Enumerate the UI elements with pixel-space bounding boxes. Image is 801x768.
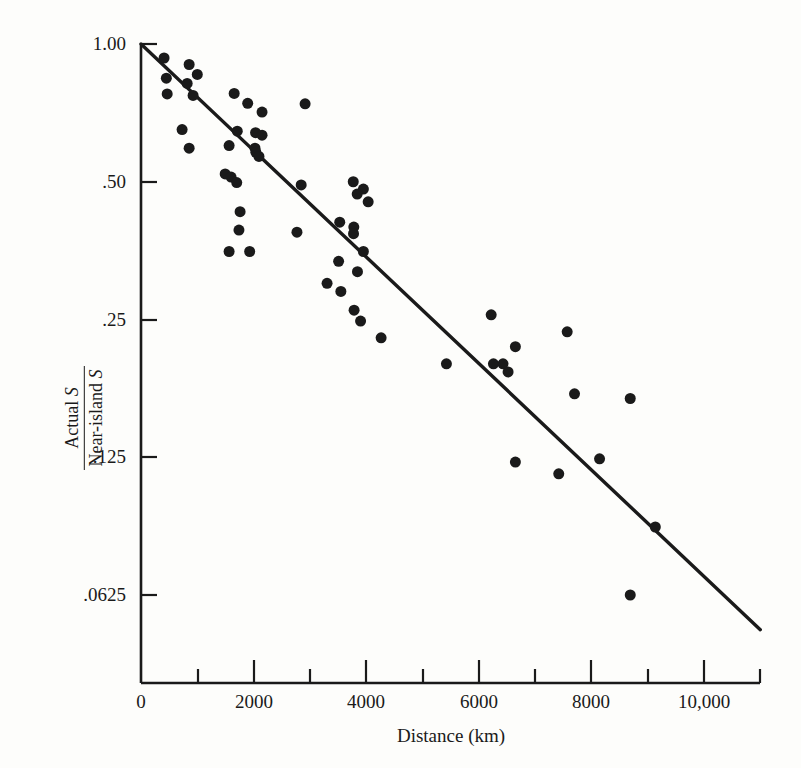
- data-point: [177, 124, 188, 135]
- x-tick-label-2: 2000: [235, 691, 273, 713]
- data-point: [291, 227, 302, 238]
- data-point: [232, 126, 243, 137]
- data-point: [300, 98, 311, 109]
- y-tick-label-1: 1.00: [62, 33, 126, 55]
- y-tick-label-2: .50: [62, 171, 126, 193]
- data-point: [296, 179, 307, 190]
- data-point: [503, 366, 514, 377]
- y-axis-title-numerator: Actual S: [62, 366, 84, 469]
- x-tick-label-5: 8000: [572, 691, 610, 713]
- data-point: [235, 206, 246, 217]
- x-tick-label-3: 4000: [347, 691, 385, 713]
- x-tick-label-6: 10,000: [678, 691, 730, 713]
- data-point: [257, 130, 268, 141]
- data-point: [322, 278, 333, 289]
- data-point: [333, 256, 344, 267]
- data-point: [334, 217, 345, 228]
- data-point: [363, 196, 374, 207]
- x-axis-major-ticks: [254, 660, 704, 683]
- data-point: [229, 88, 240, 99]
- y-axis-numerator-symbol: S: [62, 387, 82, 396]
- data-point: [257, 107, 268, 118]
- data-point: [162, 88, 173, 99]
- x-tick-label-1: 0: [136, 691, 146, 713]
- x-tick-label-4: 6000: [460, 691, 498, 713]
- data-point: [594, 453, 605, 464]
- data-point: [562, 326, 573, 337]
- y-axis-ticks: [141, 44, 157, 595]
- scatter-plot-figure: 1.00 .50 .25 .125 .0625 0 2000 4000 6000…: [0, 0, 801, 768]
- data-point: [352, 266, 363, 277]
- x-axis-title: Distance (km): [397, 725, 505, 747]
- data-point: [242, 98, 253, 109]
- data-point: [352, 189, 363, 200]
- data-point: [348, 228, 359, 239]
- y-axis-title-denominator: Near-island S: [85, 366, 107, 469]
- data-point: [182, 78, 193, 89]
- data-point: [376, 332, 387, 343]
- data-point: [231, 177, 242, 188]
- y-axis-denominator-symbol: S: [86, 369, 106, 378]
- data-point: [184, 143, 195, 154]
- data-point: [650, 522, 661, 533]
- data-point: [358, 246, 369, 257]
- data-point: [161, 73, 172, 84]
- data-point: [348, 176, 359, 187]
- data-point-group: [159, 53, 661, 601]
- data-point: [233, 225, 244, 236]
- data-point: [335, 286, 346, 297]
- data-point: [625, 393, 636, 404]
- data-point: [510, 341, 521, 352]
- data-point: [253, 151, 264, 162]
- y-tick-label-5: .0625: [52, 584, 126, 606]
- y-axis-title: Actual S Near-island S: [62, 358, 106, 478]
- data-point: [441, 358, 452, 369]
- data-point: [244, 246, 255, 257]
- y-axis-denominator-text: Near-island: [86, 383, 106, 467]
- data-point: [486, 309, 497, 320]
- plot-canvas: [0, 0, 801, 768]
- data-point: [192, 69, 203, 80]
- data-point: [159, 53, 170, 64]
- data-point: [188, 90, 199, 101]
- data-point: [488, 358, 499, 369]
- data-point: [224, 246, 235, 257]
- data-point: [569, 388, 580, 399]
- data-point: [625, 590, 636, 601]
- data-point: [224, 140, 235, 151]
- data-point: [355, 316, 366, 327]
- y-tick-label-3: .25: [62, 309, 126, 331]
- y-axis-numerator-text: Actual: [62, 401, 82, 449]
- data-point: [553, 468, 564, 479]
- data-point: [349, 305, 360, 316]
- data-point: [184, 59, 195, 70]
- data-point: [510, 457, 521, 468]
